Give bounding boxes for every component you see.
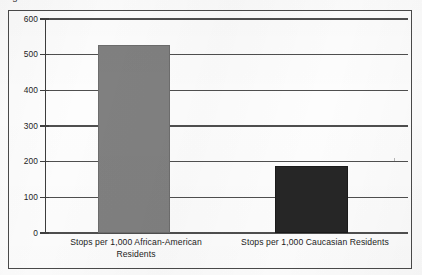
bar-1 (275, 166, 348, 233)
y-axis-tick-label-slot: 200 (0, 157, 38, 166)
x-axis-label-line: Stops per 1,000 Caucasian Residents (222, 237, 408, 249)
x-axis-category-label-1: Stops per 1,000 Caucasian Residents (222, 237, 408, 249)
screenshot-root: Figure 1 6005004003002001000 Stops per 1… (0, 0, 422, 275)
y-axis-tick (40, 90, 49, 91)
y-axis-tick-label-slot: 500 (0, 50, 38, 59)
x-axis-category-label-0: Stops per 1,000 African-AmericanResident… (46, 237, 226, 260)
y-axis-tick-label: 500 (2, 50, 38, 59)
y-axis-tick (40, 197, 49, 198)
y-axis-tick-label-slot: 400 (0, 86, 38, 95)
bar-chart-plot-area: 6005004003002001000 Stops per 1,000 Afri… (0, 0, 422, 275)
x-axis-label-line: Residents (46, 249, 226, 261)
gridline (45, 18, 408, 19)
y-axis-tick-label-slot: 0 (0, 229, 38, 238)
y-axis-tick (40, 54, 49, 55)
y-axis-tick (40, 232, 49, 233)
y-axis-tick-label: 200 (2, 157, 38, 166)
y-axis-tick-label: 0 (2, 229, 38, 238)
y-axis-tick-label: 400 (2, 86, 38, 95)
scan-speck (394, 158, 395, 161)
y-axis-tick (40, 18, 49, 19)
y-axis-tick-label-slot: 100 (0, 193, 38, 202)
y-axis-tick-label: 100 (2, 193, 38, 202)
y-axis-tick (40, 161, 49, 162)
y-axis-tick-label: 300 (2, 122, 38, 131)
y-axis-tick-label: 600 (2, 15, 38, 24)
y-axis-tick (40, 125, 49, 126)
bar-0 (98, 45, 170, 233)
y-axis-tick-label-slot: 300 (0, 122, 38, 131)
x-axis-label-line: Stops per 1,000 African-American (46, 237, 226, 249)
y-axis-tick-label-slot: 600 (0, 15, 38, 24)
